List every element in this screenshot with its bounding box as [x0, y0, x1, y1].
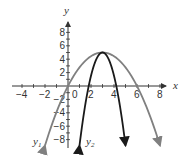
x-tick-label: −2 — [39, 89, 51, 100]
x-tick-label: 8 — [157, 89, 163, 100]
parabola-graph: −4−202468 x 8642−2−4−6−8 y y1 y2 — [0, 0, 186, 158]
y-tick-label: 2 — [59, 67, 65, 78]
y-tick-label: −6 — [54, 121, 66, 132]
x-tick-label: 4 — [111, 89, 117, 100]
x-tick-label: 2 — [88, 89, 94, 100]
y-tick-label: −8 — [54, 134, 66, 145]
y-tick-label: 6 — [59, 40, 65, 51]
curve-y2 — [80, 53, 126, 146]
x-tick-label: −4 — [16, 89, 28, 100]
y2-label: y2 — [85, 135, 95, 149]
x-axis-label: x — [172, 79, 178, 91]
y1-label: y1 — [32, 135, 41, 149]
x-tick-label: 0 — [72, 89, 78, 100]
y-tick-label: 4 — [59, 54, 65, 65]
y-tick-label: 8 — [59, 27, 65, 38]
y-axis: 8642−2−4−6−8 y — [54, 4, 70, 148]
y-axis-label: y — [63, 4, 69, 16]
x-axis: −4−202468 x — [12, 79, 178, 100]
